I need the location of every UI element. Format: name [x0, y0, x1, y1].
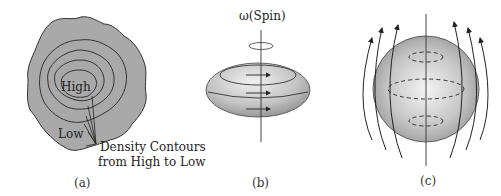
caption-c: (c): [420, 174, 436, 188]
panel-b-spinning-ellipsoid: ω(Spin) (b): [170, 0, 330, 196]
label-low: Low: [58, 127, 83, 141]
panel-a-density-contours: High Low Density Contours from High to L…: [0, 0, 170, 196]
caption-b: (b): [252, 176, 269, 190]
label-high: High: [61, 80, 91, 94]
sphere-field-diagram: [330, 0, 501, 196]
caption-a: (a): [74, 176, 91, 190]
label-spin-axis: ω(Spin): [239, 9, 286, 23]
panel-c-magnetic-sphere: (c): [330, 0, 501, 196]
ellipsoid-diagram: [170, 0, 330, 196]
